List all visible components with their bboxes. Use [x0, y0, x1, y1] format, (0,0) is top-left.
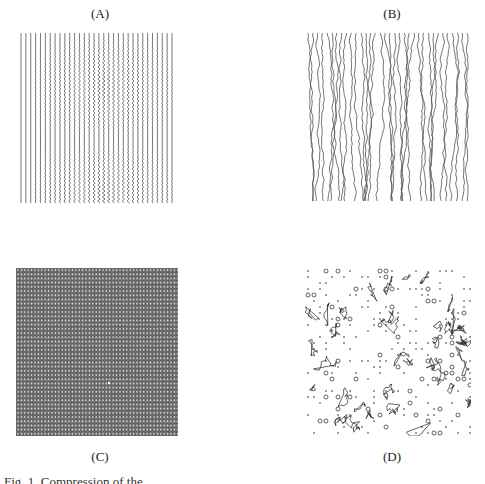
panel-a-straight-wavy-lines: [19, 33, 174, 203]
panel-c-circle-grid: [16, 268, 178, 436]
panel-c-label: (C): [91, 449, 108, 465]
panel-b-irregular-lines: [306, 33, 469, 203]
panel-b-label: (B): [383, 6, 400, 22]
panel-d-label: (D): [383, 449, 401, 465]
panel-a-label: (A): [91, 6, 109, 22]
figure-caption: Fig. 1. Compression of the ...: [4, 474, 156, 484]
panel-d-contours: [305, 268, 471, 436]
